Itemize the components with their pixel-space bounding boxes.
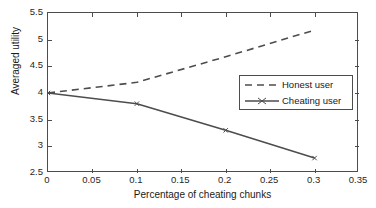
legend-item-honest-user: Honest user [240, 77, 354, 93]
x-tick-label: 0.15 [157, 175, 203, 185]
y-tick-label: 5.5 [0, 7, 43, 17]
x-tick-label: 0.05 [68, 175, 114, 185]
y-tick-label: 5 [0, 34, 43, 44]
x-tick-label: 0.25 [246, 175, 292, 185]
chart-figure: Averaged utility 5.554.543.532.5 00.050.… [0, 0, 376, 208]
x-tick-label: 0.1 [113, 175, 159, 185]
x-tick-label: 0 [24, 175, 70, 185]
x-axis-label: Percentage of cheating chunks [47, 190, 358, 200]
legend-swatch-solid-line [244, 94, 280, 108]
y-tick-label: 4.5 [0, 60, 43, 70]
legend-swatch-dashed-line [244, 78, 280, 92]
legend-label-honest-user: Honest user [282, 80, 333, 90]
legend-item-cheating-user: Cheating user [240, 93, 354, 109]
y-tick-label: 3.5 [0, 114, 43, 124]
x-tick-label: 0.35 [335, 175, 376, 185]
x-tick-label: 0.3 [291, 175, 337, 185]
chart-legend: Honest user Cheating user [239, 75, 353, 110]
y-tick-label: 3 [0, 140, 43, 150]
legend-label-cheating-user: Cheating user [282, 96, 341, 106]
y-tick-label: 4 [0, 87, 43, 97]
x-tick-label: 0.2 [202, 175, 248, 185]
